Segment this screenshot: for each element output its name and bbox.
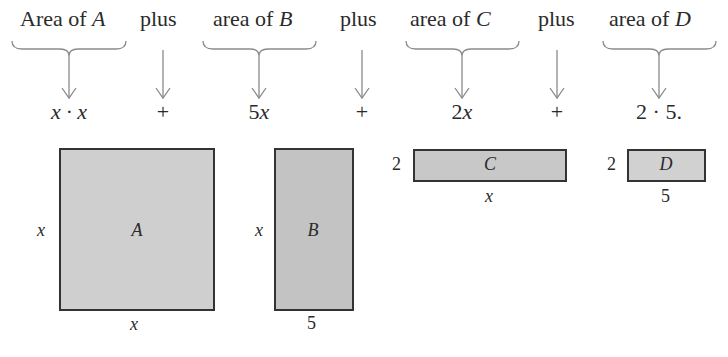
brace-c <box>406 41 519 56</box>
rect-d-bottom-label: 5 <box>661 186 670 207</box>
header-area-c: area of C <box>410 6 491 32</box>
header-plus-2: plus <box>340 6 377 32</box>
header-var: D <box>675 6 691 31</box>
expr-var: x <box>260 99 270 124</box>
header-text: Area of <box>20 6 92 31</box>
brace-b <box>203 41 316 56</box>
header-area-b: area of B <box>213 6 292 32</box>
header-var: A <box>92 6 105 31</box>
brace-a <box>12 41 126 56</box>
rect-c-bottom-label: x <box>485 186 493 207</box>
expr-d: 2 · 5. <box>629 99 689 125</box>
expr-a: x · x <box>39 99 99 125</box>
rect-b-side-label: x <box>255 220 263 241</box>
expr-plus-3: + <box>547 99 567 125</box>
rect-d-label: D <box>646 154 686 175</box>
header-var: B <box>279 6 292 31</box>
header-text: area of <box>410 6 476 31</box>
rect-b-bottom-label: 5 <box>307 313 316 334</box>
header-text: area of <box>609 6 675 31</box>
header-text: area of <box>213 6 279 31</box>
rect-a-bottom-label: x <box>130 314 138 335</box>
header-var: C <box>476 6 491 31</box>
rect-c-side-label: 2 <box>392 154 401 175</box>
header-area-d: area of D <box>609 6 691 32</box>
expr-plus-1: + <box>153 99 173 125</box>
expr-c: 2x <box>442 99 482 125</box>
header-plus-1: plus <box>140 6 177 32</box>
rect-c-label: C <box>470 154 510 175</box>
rect-a-side-label: x <box>37 220 45 241</box>
expr-b: 5x <box>239 99 279 125</box>
rect-a-label: A <box>117 220 157 241</box>
rect-b-label: B <box>293 220 333 241</box>
rect-d-side-label: 2 <box>607 154 616 175</box>
expr-num: 5 <box>249 99 260 124</box>
brace-d <box>603 41 716 56</box>
expr-plus-2: + <box>352 99 372 125</box>
expr-var: x <box>463 99 473 124</box>
header-area-a: Area of A <box>20 6 106 32</box>
expr-num: 2 <box>452 99 463 124</box>
header-plus-3: plus <box>538 6 575 32</box>
